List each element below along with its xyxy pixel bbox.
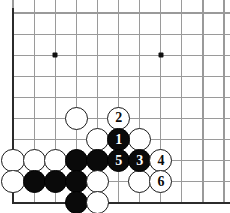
white-stone-f bbox=[44, 149, 67, 172]
white-stone-c bbox=[128, 128, 151, 151]
white-stone-2: 2 bbox=[107, 107, 130, 130]
white-stone-4: 4 bbox=[149, 149, 172, 172]
white-stone-6: 6 bbox=[149, 170, 172, 193]
black-stone-l bbox=[65, 170, 88, 193]
go-board-diagram: 215346 bbox=[0, 0, 230, 213]
move-number-3: 3 bbox=[136, 153, 143, 167]
white-stone-m bbox=[86, 170, 109, 193]
white-stone-a bbox=[65, 107, 88, 130]
stone-layer: 215346 bbox=[0, 0, 230, 213]
black-stone-g bbox=[65, 149, 88, 172]
black-stone-5: 5 bbox=[107, 149, 130, 172]
white-stone-e bbox=[23, 149, 46, 172]
white-stone-d bbox=[1, 149, 24, 172]
black-stone-1: 1 bbox=[107, 128, 130, 151]
white-stone-p bbox=[86, 191, 109, 213]
white-stone-n bbox=[128, 170, 151, 193]
move-number-1: 1 bbox=[115, 132, 122, 146]
move-number-6: 6 bbox=[157, 174, 164, 188]
black-stone-k bbox=[44, 170, 67, 193]
move-number-5: 5 bbox=[115, 153, 122, 167]
white-stone-i bbox=[1, 170, 24, 193]
white-stone-b bbox=[86, 128, 109, 151]
star-point-upper-left bbox=[53, 53, 58, 58]
black-stone-3: 3 bbox=[128, 149, 151, 172]
black-stone-j bbox=[23, 170, 46, 193]
black-stone-o bbox=[65, 191, 88, 213]
move-number-4: 4 bbox=[157, 153, 164, 167]
move-number-2: 2 bbox=[115, 111, 122, 125]
star-point-upper-right bbox=[158, 53, 163, 58]
black-stone-h bbox=[86, 149, 109, 172]
